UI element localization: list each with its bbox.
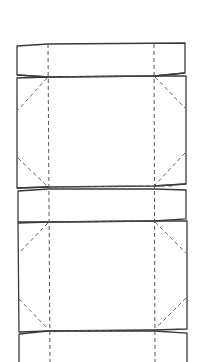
fold-line-right	[154, 44, 155, 362]
bottom-flap	[19, 331, 187, 362]
panel-1-diagonals	[18, 77, 185, 186]
panel-1	[17, 73, 186, 188]
top-flap	[17, 43, 185, 77]
fold-line-left	[48, 44, 50, 362]
panel-2-diagonals	[19, 222, 186, 329]
middle-flap	[17, 184, 186, 222]
box-net-diagram	[0, 0, 210, 362]
panel-2	[18, 221, 187, 332]
